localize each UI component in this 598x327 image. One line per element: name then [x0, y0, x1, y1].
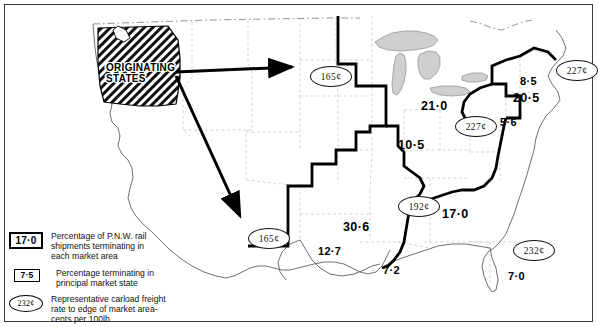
freight-rate-mid-south: 192¢: [398, 196, 440, 217]
legend-line-3-2: rate to edge of market area-: [51, 304, 166, 314]
state-pct-5-6: 5·6: [500, 117, 517, 128]
freight-rate-north-central: 165¢: [310, 66, 352, 87]
state-boundaries: [183, 16, 550, 290]
legend-line-1-1: Percentage of P.N.W. rail: [51, 231, 146, 241]
legend-item-principal-state: 7·5 Percentage terminating in principal …: [9, 268, 179, 288]
state-pct-7-2: 7·2: [383, 265, 400, 276]
flow-arrows: [176, 67, 292, 216]
legend-key-wrap-1: 17·0: [9, 231, 49, 249]
market-pct-upper-midwest: 21·0: [421, 100, 448, 113]
freight-rate-south-east: 232¢: [513, 240, 555, 261]
legend-line-1-3: each market area: [51, 251, 146, 261]
legend-key-thick-box: 17·0: [9, 232, 43, 249]
freight-rate-south-west: 165¢: [248, 228, 290, 249]
legend-item-market-area: 17·0 Percentage of P.N.W. rail shipments…: [9, 231, 179, 262]
legend-text-3: Representative carload freight rate to e…: [49, 294, 166, 325]
legend-line-3-3: cents per 100lb.: [51, 314, 166, 324]
market-pct-southeast: 17·0: [442, 208, 469, 221]
legend: 17·0 Percentage of P.N.W. rail shipments…: [9, 231, 179, 327]
originating-label-line2: STATES: [106, 73, 175, 84]
legend-text-2: Percentage terminating in principal mark…: [54, 268, 154, 288]
legend-line-2-1: Percentage terminating in: [56, 268, 154, 278]
legend-line-2-2: principal market state: [56, 278, 154, 288]
legend-key-wrap-3: 232¢: [9, 294, 49, 312]
legend-line-1-2: shipments terminating in: [51, 241, 146, 251]
market-pct-central-midwest: 10·5: [398, 139, 425, 152]
flow-arrow-southeast: [176, 76, 240, 216]
legend-key-oval: 232¢: [9, 295, 43, 312]
freight-rate-north-east: 227¢: [556, 60, 598, 81]
flow-arrow-east: [176, 67, 292, 72]
legend-item-freight-rate: 232¢ Representative carload freight rate…: [9, 294, 179, 325]
market-pct-northeast: 20·5: [513, 92, 540, 105]
state-pct-7-0: 7·0: [508, 271, 525, 282]
legend-key-wrap-2: 7·5: [9, 268, 54, 282]
market-pct-south-central: 30·6: [343, 221, 370, 234]
map-figure: ORIGINATING STATES 21·0 10·5 30·6 17·0 2…: [0, 0, 598, 327]
legend-text-1: Percentage of P.N.W. rail shipments term…: [49, 231, 146, 262]
great-lakes: [375, 31, 488, 96]
legend-line-3-1: Representative carload freight: [51, 294, 166, 304]
state-pct-8-5: 8·5: [520, 76, 537, 87]
legend-key-thin-box: 7·5: [14, 269, 40, 282]
state-pct-12-7: 12·7: [318, 246, 341, 257]
freight-rate-east: 227¢: [455, 116, 497, 137]
originating-label-line1: ORIGINATING: [106, 62, 175, 73]
originating-states-label: ORIGINATING STATES: [106, 62, 175, 84]
